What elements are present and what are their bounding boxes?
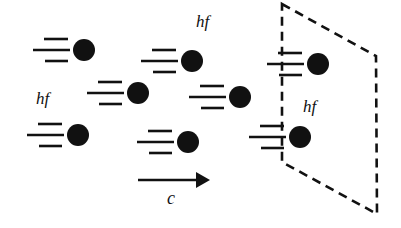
label-speed-c: c	[167, 188, 175, 208]
photon-dot	[177, 131, 199, 153]
photon-dot	[127, 82, 149, 104]
arrow-head-icon	[196, 172, 210, 188]
photon	[267, 53, 329, 75]
dashed-plane	[282, 4, 377, 214]
photon-dot	[307, 53, 329, 75]
photon-dot	[289, 126, 311, 148]
photon-dot	[73, 39, 95, 61]
photon-flux-diagram: hfhfhfc	[0, 0, 401, 228]
photon	[141, 50, 203, 72]
photon-dot	[67, 124, 89, 146]
photon	[189, 86, 251, 108]
plane-outline	[282, 4, 377, 214]
label-hf-plane: hf	[303, 97, 319, 116]
photons	[27, 39, 329, 153]
photon-dot	[229, 86, 251, 108]
label-hf-left: hf	[36, 89, 52, 108]
speed-arrow	[138, 172, 210, 188]
photon	[27, 124, 89, 146]
photon	[137, 131, 199, 153]
photon	[87, 82, 149, 104]
photon-dot	[181, 50, 203, 72]
label-hf-top: hf	[196, 12, 212, 31]
photon	[249, 126, 311, 148]
photon	[33, 39, 95, 61]
